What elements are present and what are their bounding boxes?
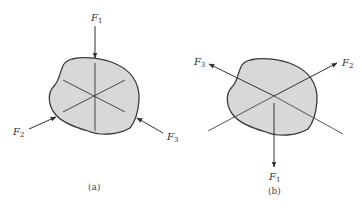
label-f1-b: F1	[268, 171, 280, 184]
arrow-f2-a	[29, 117, 56, 129]
diagram-a: F1 F2 F3 (a)	[12, 12, 178, 192]
label-f1-a: F1	[90, 12, 102, 25]
diagram-b: F3 F2 F1 (b)	[193, 56, 353, 196]
caption-a: (a)	[88, 182, 100, 192]
label-f2-b: F2	[341, 57, 353, 70]
caption-b: (b)	[268, 186, 281, 196]
arrow-f3-a	[137, 118, 163, 133]
label-f3-b: F3	[193, 56, 205, 69]
label-f3-a: F3	[166, 131, 178, 144]
diagram-canvas: F1 F2 F3 (a) F3 F2 F1 (b)	[0, 0, 362, 211]
label-f2-a: F2	[12, 126, 24, 139]
